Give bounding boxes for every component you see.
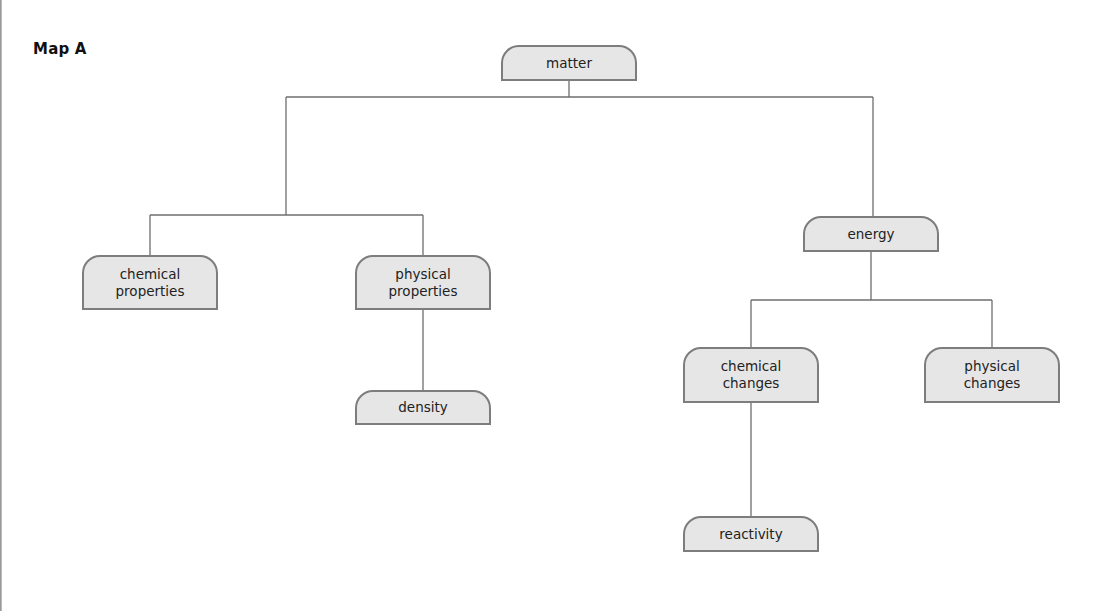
node-physical-properties: physical properties [355,255,491,310]
node-chemical-properties: chemical properties [82,255,218,310]
node-density: density [355,390,491,425]
node-physical-changes: physical changes [924,347,1060,403]
node-energy: energy [803,216,939,252]
node-reactivity: reactivity [683,516,819,552]
node-chemical-changes: chemical changes [683,347,819,403]
node-matter: matter [501,45,637,81]
